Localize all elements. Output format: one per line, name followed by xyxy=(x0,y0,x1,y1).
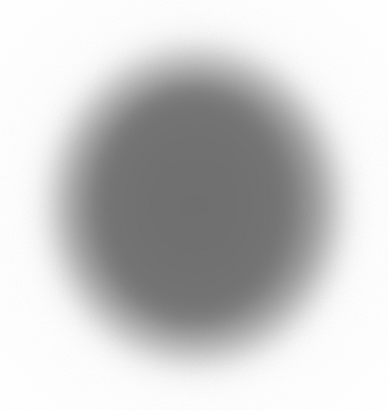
blob-outer-halo xyxy=(16,10,376,402)
image-alt-text: A large, heavily blurred gray circular b… xyxy=(0,0,1,1)
image-canvas: A large, heavily blurred gray circular b… xyxy=(0,0,388,410)
edge-softening-overlay xyxy=(0,0,388,410)
blob-inner-halo xyxy=(41,41,351,370)
blob-core-disk xyxy=(89,81,303,329)
grain-texture-overlay xyxy=(0,0,388,410)
